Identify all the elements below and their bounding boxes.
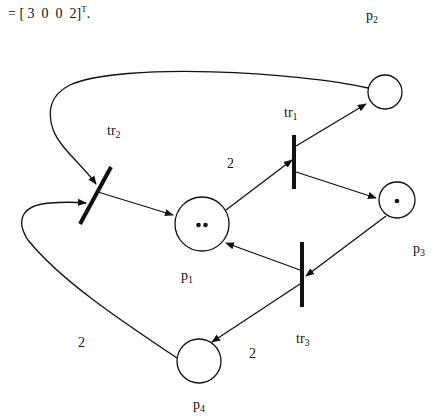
label-tr1: tr1 [284,105,298,122]
place-p1[interactable] [175,197,229,251]
transition-tr2[interactable] [80,167,111,224]
token-p1-2 [203,223,208,228]
arc-tr3-to-p4 [212,284,300,342]
label-p1: p1 [181,268,193,285]
arc-p1-to-tr1 [226,160,292,210]
arc-p2-to-tr2 [50,71,368,184]
arc-tr3-to-p1 [226,243,300,270]
weight-tr3-p4: 2 [249,346,256,361]
label-p4: p4 [193,397,205,414]
place-p2[interactable] [368,75,402,109]
label-tr2: tr2 [107,123,121,140]
arc-tr1-to-p2 [296,104,366,146]
weight-p4-tr2: 2 [78,335,85,350]
token-p3-1 [395,199,400,204]
arc-p3-to-tr3 [306,216,386,276]
label-tr3: tr3 [296,331,310,348]
petri-net-diagram: p1 p2 p3 p4 tr1 tr2 tr3 2 2 2 [0,0,444,419]
arc-p4-to-tr2 [22,202,177,358]
label-p3: p3 [413,241,425,258]
place-p4[interactable] [177,339,221,383]
arc-tr2-to-p1 [98,192,173,215]
token-p1-1 [196,223,201,228]
label-p2: p2 [366,8,378,25]
arc-tr1-to-p3 [296,172,376,198]
weight-p1-tr1: 2 [227,156,234,171]
